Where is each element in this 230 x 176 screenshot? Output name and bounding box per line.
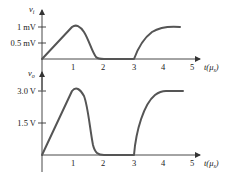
top-xtick-2: 2 [101,62,105,72]
top-xtick-5: 5 [190,62,194,72]
bottom-xtick-3: 3 [132,158,136,168]
input-waveform [42,26,180,59]
waveform-diagram: vi 1 mV 0.5 mV 1 2 3 4 5 t(μs) vo 3.0 V … [0,0,230,176]
top-xtick-4: 4 [161,62,166,72]
bottom-xtick-4: 4 [161,158,166,168]
bottom-xtick-5: 5 [190,158,194,168]
top-x-axis-label: t(μs) [204,62,219,73]
top-xtick-3: 3 [132,62,136,72]
bottom-x-axis-label: t(μs) [204,158,219,169]
top-ytick-label-0.5mv: 0.5 mV [11,38,37,48]
top-xtick-1: 1 [71,62,75,72]
bottom-ytick-label-1.5v: 1.5 V [17,118,37,128]
output-waveform [42,89,183,155]
bottom-ytick-label-3v: 3.0 V [17,86,37,96]
bottom-xtick-2: 2 [101,158,105,168]
top-ytick-label-1mv: 1 mV [17,22,37,32]
bottom-xtick-1: 1 [71,158,75,168]
bottom-plot: vo 3.0 V 1.5 V 1 2 3 4 5 t(μs) [17,68,219,172]
bottom-y-axis-label: vo [28,68,35,79]
top-y-axis-label: vi [29,4,35,15]
